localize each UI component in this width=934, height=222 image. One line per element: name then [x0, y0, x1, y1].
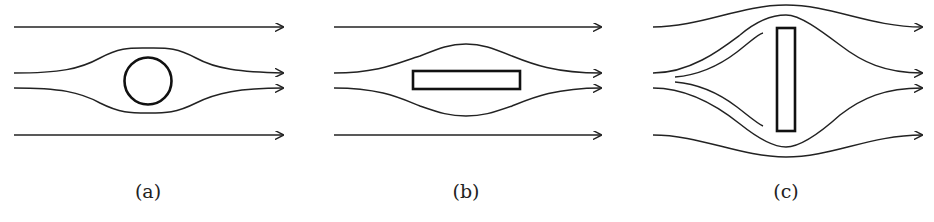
horizontal-plate-obstacle: [413, 71, 520, 89]
streamline-top: [653, 5, 922, 27]
caption-c: (c): [773, 180, 798, 202]
panel-c: [653, 5, 922, 157]
streamline-lower: [334, 88, 601, 116]
streamline-upper: [334, 44, 601, 73]
caption-b: (b): [453, 180, 480, 202]
caption-a: (a): [135, 180, 161, 202]
panel-a: [14, 27, 283, 135]
panel-b: [334, 27, 601, 135]
vertical-plate-obstacle: [777, 28, 795, 131]
streamline-upper-deflected: [675, 33, 763, 77]
streamline-lower-deflected: [675, 82, 763, 126]
streamline-bottom: [653, 135, 922, 157]
circle-obstacle: [125, 58, 172, 105]
